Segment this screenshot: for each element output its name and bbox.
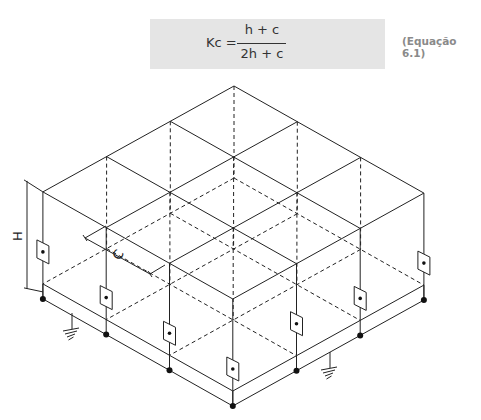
ground-bar — [63, 328, 79, 331]
isometric-structure-diagram: H C — [0, 0, 481, 420]
roof-grid-line — [170, 157, 361, 263]
floor-front-edge — [43, 284, 233, 391]
roof-grid-line — [107, 157, 297, 264]
base-edge — [233, 300, 424, 406]
ground-bar — [323, 370, 335, 373]
base-node-dot — [357, 332, 363, 338]
ground-bar — [69, 337, 74, 340]
ground-bar — [325, 373, 333, 376]
base-node-dot — [167, 367, 173, 373]
hidden-edges — [43, 86, 424, 356]
base-edge — [43, 299, 233, 406]
ground-bar — [67, 334, 75, 337]
floor-grid-line — [234, 178, 424, 285]
floor-grid-line — [106, 214, 297, 320]
dimension-lines — [24, 180, 165, 292]
ground-symbol-left — [63, 313, 79, 340]
electrode-dot — [295, 322, 299, 326]
roof-grid-line — [170, 121, 360, 228]
base-node-dot — [230, 403, 236, 409]
ground-bar — [65, 331, 77, 334]
ground-bar — [321, 367, 337, 370]
electrode-dot — [104, 296, 108, 300]
roof-grid-line — [43, 192, 233, 299]
electrode-dot — [231, 367, 235, 371]
floor-grid-line — [170, 249, 361, 355]
floor-grid-line — [107, 249, 297, 356]
cell-extension-line — [150, 265, 165, 274]
electrode-dot — [422, 261, 426, 265]
base-node-dot — [103, 332, 109, 338]
electrode-dot — [168, 332, 172, 336]
base-node-dot — [294, 368, 300, 374]
base-node-dot — [421, 297, 427, 303]
base-node-dot — [40, 296, 46, 302]
height-label: H — [10, 231, 25, 241]
cell-extension-line — [85, 226, 106, 238]
roof-grid-line — [43, 86, 234, 192]
roof-grid-line — [233, 193, 424, 299]
height-extension-line — [24, 288, 43, 292]
roof-grid-line — [234, 86, 424, 193]
roof-grid-line — [106, 122, 297, 228]
electrode-dot — [358, 297, 362, 301]
floor-grid-line — [170, 213, 360, 320]
ground-bar — [327, 376, 332, 379]
electrode-dot — [41, 250, 45, 254]
